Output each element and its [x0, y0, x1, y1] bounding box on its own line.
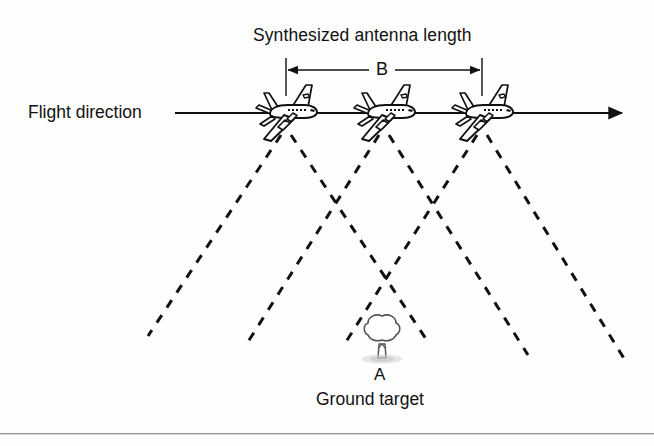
flight-direction-label: Flight direction [28, 104, 142, 122]
sar-diagram-figure: Synthesized antenna length B Flight dire… [0, 0, 654, 446]
ground-target-tree-icon [362, 315, 402, 364]
bottom-divider [0, 433, 654, 435]
beam-aircraft3-right [487, 135, 628, 365]
ground-target-label: Ground target [316, 391, 424, 409]
diagram-canvas [0, 0, 654, 446]
baseline-b-label: B [376, 60, 388, 78]
beam-aircraft1-left [148, 135, 281, 336]
synthesized-antenna-length-label: Synthesized antenna length [253, 27, 472, 45]
target-a-label: A [374, 366, 385, 383]
